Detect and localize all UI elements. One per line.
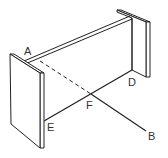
- right-panel: [117, 10, 150, 77]
- left-panel: [10, 54, 44, 148]
- top-rail: [24, 16, 132, 64]
- label-A: A: [24, 45, 32, 57]
- line-FB: [91, 94, 146, 131]
- label-E: E: [47, 121, 54, 133]
- label-B: B: [148, 130, 155, 142]
- hidden-line-AF: [40, 61, 91, 94]
- label-F: F: [86, 99, 93, 111]
- label-D: D: [128, 76, 136, 88]
- diagram-canvas: A D F E B: [0, 0, 168, 158]
